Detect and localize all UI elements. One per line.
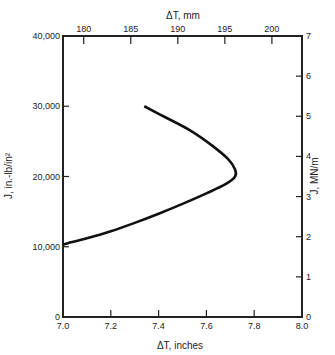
x2-tick-label: 185 bbox=[123, 24, 138, 34]
x-tick-label: 7.2 bbox=[105, 321, 118, 331]
x-tick-label: 7.4 bbox=[152, 321, 165, 331]
x-tick-label: 7.8 bbox=[248, 321, 261, 331]
y2-tick-label: 2 bbox=[306, 232, 311, 242]
x2-tick-label: 200 bbox=[264, 24, 279, 34]
y2-tick-label: 6 bbox=[306, 71, 311, 81]
y-axis-label: J, in.-lb/in² bbox=[3, 152, 14, 199]
y-tick-label: 30,000 bbox=[32, 101, 60, 111]
x2-tick-label: 195 bbox=[217, 24, 232, 34]
y-tick-label: 10,000 bbox=[32, 242, 60, 252]
y-tick-label: 20,000 bbox=[32, 172, 60, 182]
x-axis-label: ΔT, inches bbox=[157, 340, 203, 351]
y2-tick-label: 5 bbox=[306, 111, 311, 121]
y2-tick-label: 7 bbox=[306, 31, 311, 41]
chart: 7.07.27.47.67.88.0010,00020,00030,00040,… bbox=[0, 0, 335, 355]
y2-axis-label: J, MN/m bbox=[309, 157, 320, 194]
x-tick-label: 7.6 bbox=[200, 321, 213, 331]
x2-tick-label: 190 bbox=[170, 24, 185, 34]
y2-tick-label: 1 bbox=[306, 272, 311, 282]
x2-tick-label: 180 bbox=[76, 24, 91, 34]
x-tick-label: 8.0 bbox=[296, 321, 309, 331]
data-curve bbox=[63, 106, 236, 244]
x-tick-label: 7.0 bbox=[57, 321, 70, 331]
y-tick-label: 40,000 bbox=[32, 31, 60, 41]
x2-axis-label: ΔT, mm bbox=[166, 10, 200, 21]
y-tick-label: 0 bbox=[55, 312, 60, 322]
y2-tick-label: 0 bbox=[306, 312, 311, 322]
plot-frame bbox=[63, 36, 302, 317]
